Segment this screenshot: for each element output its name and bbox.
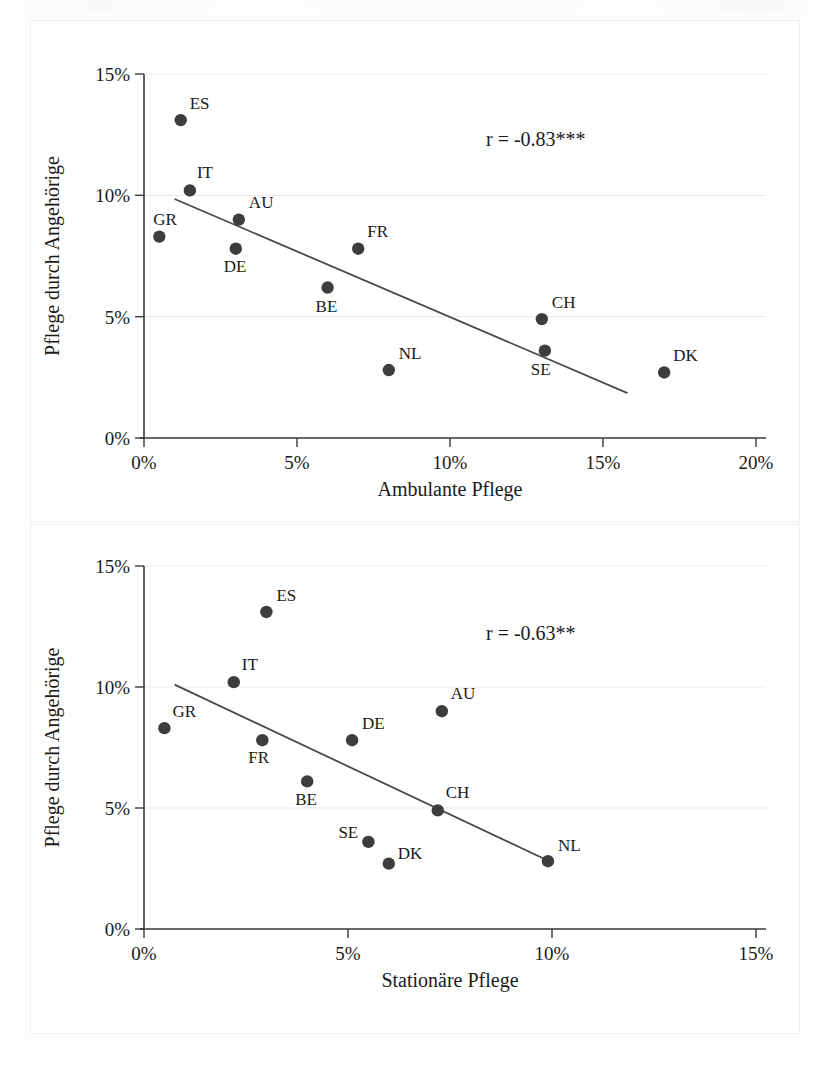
y-tick-label-1: 5% [105,307,131,328]
x-tick-label-1: 5% [284,452,310,473]
chart-panel-ambulante: 0%5%10%15%0%5%10%15%20%GRESITDEAUBEFRNLC… [30,20,800,522]
page-top-artifact-strip [0,0,820,14]
data-point-CH[interactable] [432,804,444,816]
y-tick-label-0: 0% [105,428,131,449]
data-point-AU[interactable] [436,705,448,717]
data-point-SE[interactable] [362,836,374,848]
y-tick-label-3: 15% [95,556,130,577]
data-point-label-GR: GR [172,702,196,721]
x-tick-label-1: 5% [335,943,361,964]
x-tick-label-0: 0% [131,452,157,473]
data-point-CH[interactable] [536,313,548,325]
data-point-label-ES: ES [190,94,210,113]
data-point-BE[interactable] [301,775,313,787]
regression-fit-line [175,685,552,863]
y-tick-label-2: 10% [95,677,130,698]
data-point-label-NL: NL [558,836,581,855]
x-tick-label-2: 10% [433,452,468,473]
data-point-label-SE: SE [531,360,551,379]
chart-panel-stationaere: 0%5%10%15%0%5%10%15%GRITESFRBEDESEDKAUCH… [30,524,800,1034]
data-point-IT[interactable] [228,676,240,688]
x-tick-label-2: 10% [535,943,570,964]
y-axis-title: Pflege durch Angehörige [41,647,64,847]
y-tick-label-0: 0% [105,919,131,940]
data-point-BE[interactable] [321,281,333,293]
x-axis-title: Stationäre Pflege [381,969,518,992]
data-point-label-GR: GR [153,210,177,229]
data-point-ES[interactable] [260,606,272,618]
data-point-label-FR: FR [367,222,388,241]
x-tick-label-3: 15% [586,452,621,473]
data-point-label-AU: AU [451,684,476,703]
data-point-DK[interactable] [383,857,395,869]
x-tick-label-0: 0% [131,943,157,964]
data-point-DK[interactable] [658,366,670,378]
data-point-label-DK: DK [673,346,698,365]
data-point-label-DE: DE [224,257,247,276]
data-point-label-IT: IT [197,163,214,182]
data-point-label-IT: IT [242,655,259,674]
data-point-label-DE: DE [362,714,385,733]
data-point-label-SE: SE [338,823,358,842]
data-point-NL[interactable] [383,364,395,376]
correlation-annotation: r = -0.63** [486,622,576,644]
x-tick-label-4: 20% [739,452,774,473]
data-point-GR[interactable] [158,722,170,734]
data-point-label-CH: CH [446,783,470,802]
data-point-IT[interactable] [184,184,196,196]
y-axis-title: Pflege durch Angehörige [41,156,64,356]
data-point-label-NL: NL [399,344,422,363]
y-tick-label-3: 15% [95,64,130,85]
data-point-label-FR: FR [248,748,269,767]
data-point-label-BE: BE [295,790,317,809]
data-point-DE[interactable] [346,734,358,746]
x-axis-title: Ambulante Pflege [378,478,523,501]
data-point-SE[interactable] [539,344,551,356]
y-tick-label-2: 10% [95,185,130,206]
y-tick-label-1: 5% [105,798,131,819]
data-point-label-AU: AU [249,193,274,212]
data-point-ES[interactable] [175,114,187,126]
data-point-label-ES: ES [276,586,296,605]
data-point-label-BE: BE [316,297,338,316]
data-point-FR[interactable] [352,243,364,255]
data-point-FR[interactable] [256,734,268,746]
figure-page: 0%5%10%15%0%5%10%15%20%GRESITDEAUBEFRNLC… [0,0,820,1067]
x-tick-label-3: 15% [739,943,774,964]
data-point-GR[interactable] [153,230,165,242]
data-point-label-CH: CH [552,293,576,312]
data-point-DE[interactable] [230,243,242,255]
scatter-plot-ambulante: 0%5%10%15%0%5%10%15%20%GRESITDEAUBEFRNLC… [31,21,799,521]
correlation-annotation: r = -0.83*** [486,128,586,150]
scatter-plot-stationaere: 0%5%10%15%0%5%10%15%GRITESFRBEDESEDKAUCH… [31,525,799,1033]
data-point-label-DK: DK [398,844,423,863]
data-point-NL[interactable] [542,855,554,867]
data-point-AU[interactable] [233,213,245,225]
